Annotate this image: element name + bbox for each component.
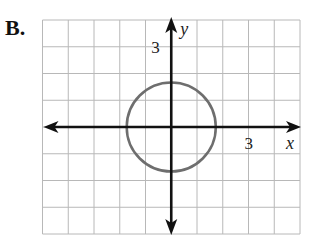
x-axis-label: x <box>285 133 294 153</box>
coordinate-plane: 3 3 y x <box>0 0 311 247</box>
x-tick-label: 3 <box>245 134 254 153</box>
y-axis-label: y <box>178 19 188 39</box>
y-tick-label: 3 <box>151 38 160 57</box>
